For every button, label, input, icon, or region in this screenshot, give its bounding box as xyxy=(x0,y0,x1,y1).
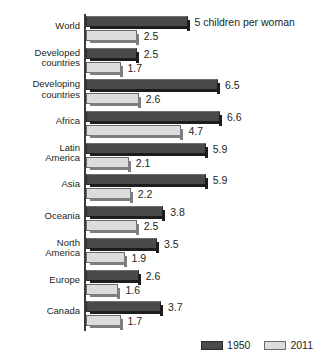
chart-row: Developing countries6.52.6 xyxy=(0,77,321,109)
legend-item-2011: 2011 xyxy=(264,339,313,351)
bar-wrapper: 5.9 xyxy=(86,174,321,186)
category-label: Europe xyxy=(0,275,80,286)
chart-row: Oceania3.82.5 xyxy=(0,204,321,236)
chart-row: Canada3.71.7 xyxy=(0,299,321,331)
bar-value-label: 2.5 xyxy=(144,48,159,60)
bar-wrapper: 5 children per woman xyxy=(86,16,321,28)
plot-area: World5 children per woman2.5Developed co… xyxy=(0,0,321,332)
bar-value-label: 5.9 xyxy=(213,174,228,186)
bar-value-label: 1.7 xyxy=(128,315,143,327)
bar-wrapper: 2.5 xyxy=(86,30,321,42)
bar-value-label: 6.5 xyxy=(225,79,240,91)
bar-value-label: 5.9 xyxy=(213,143,228,155)
chart-row: World5 children per woman2.5 xyxy=(0,14,321,46)
row-bars: 2.51.7 xyxy=(86,48,321,76)
bar-value-label: 3.7 xyxy=(168,301,183,313)
bar-2011 xyxy=(86,252,125,263)
bar-value-label: 6.6 xyxy=(227,111,242,123)
bar-value-label: 1.7 xyxy=(128,62,143,74)
bar-wrapper: 1.9 xyxy=(86,252,321,264)
bar-2011 xyxy=(86,188,131,199)
row-bars: 6.64.7 xyxy=(86,111,321,139)
bar-value-label: 2.5 xyxy=(144,30,159,42)
legend-item-1950: 1950 xyxy=(201,339,250,351)
bar-wrapper: 2.6 xyxy=(86,93,321,105)
bar-wrapper: 5.9 xyxy=(86,143,321,155)
bar-1950 xyxy=(86,270,139,281)
legend-swatch-2011 xyxy=(264,341,286,350)
bar-wrapper: 3.5 xyxy=(86,238,321,250)
bar-1950 xyxy=(86,48,137,59)
bar-wrapper: 2.5 xyxy=(86,48,321,60)
category-label: Oceania xyxy=(0,211,80,222)
bar-wrapper: 2.1 xyxy=(86,157,321,169)
bar-wrapper: 6.5 xyxy=(86,79,321,91)
bar-wrapper: 1.7 xyxy=(86,315,321,327)
bar-value-label: 1.9 xyxy=(132,252,147,264)
chart-row: Asia5.92.2 xyxy=(0,172,321,204)
row-bars: 5.92.1 xyxy=(86,143,321,171)
bar-value-label: 2.6 xyxy=(146,93,161,105)
bar-2011 xyxy=(86,315,121,326)
bar-rows: World5 children per woman2.5Developed co… xyxy=(0,14,321,331)
chart-annotation: 5 children per woman xyxy=(195,16,295,28)
bar-2011 xyxy=(86,157,129,168)
category-label: Developed countries xyxy=(0,48,80,69)
bar-1950 xyxy=(86,111,220,122)
bar-wrapper: 3.8 xyxy=(86,206,321,218)
bar-wrapper: 2.6 xyxy=(86,270,321,282)
legend-swatch-1950 xyxy=(201,341,223,350)
bar-2011 xyxy=(86,125,181,136)
bar-value-label: 4.7 xyxy=(188,125,203,137)
bar-wrapper: 3.7 xyxy=(86,301,321,313)
bar-1950 xyxy=(86,238,157,249)
legend-label-2011: 2011 xyxy=(290,339,313,351)
chart-row: North America3.51.9 xyxy=(0,236,321,268)
chart-row: Latin America5.92.1 xyxy=(0,141,321,173)
bar-wrapper: 2.2 xyxy=(86,188,321,200)
bar-value-label: 2.2 xyxy=(138,188,153,200)
bar-1950 xyxy=(86,174,206,185)
bar-value-label: 2.5 xyxy=(144,220,159,232)
row-bars: 5 children per woman2.5 xyxy=(86,16,321,44)
category-label: North America xyxy=(0,238,80,259)
row-bars: 3.71.7 xyxy=(86,301,321,329)
row-bars: 2.61.6 xyxy=(86,270,321,298)
bar-1950 xyxy=(86,301,161,312)
bar-1950 xyxy=(86,206,163,217)
category-label: Asia xyxy=(0,179,80,190)
chart-row: Europe2.61.6 xyxy=(0,268,321,300)
chart-row: Developed countries2.51.7 xyxy=(0,46,321,78)
bar-value-label: 3.8 xyxy=(170,206,185,218)
category-label: Developing countries xyxy=(0,79,80,100)
category-label: Africa xyxy=(0,116,80,127)
category-label: Canada xyxy=(0,306,80,317)
bar-2011 xyxy=(86,284,118,295)
fertility-bar-chart: World5 children per woman2.5Developed co… xyxy=(0,0,321,358)
bar-value-label: 2.1 xyxy=(136,157,151,169)
row-bars: 6.52.6 xyxy=(86,79,321,107)
bar-wrapper: 2.5 xyxy=(86,220,321,232)
bar-2011 xyxy=(86,220,137,231)
bar-wrapper: 4.7 xyxy=(86,125,321,137)
row-bars: 3.51.9 xyxy=(86,238,321,266)
chart-legend: 19502011 xyxy=(0,336,321,354)
bar-value-label: 1.6 xyxy=(125,284,140,296)
bar-1950 xyxy=(86,143,206,154)
bar-value-label: 3.5 xyxy=(164,238,179,250)
bar-value-label: 2.6 xyxy=(146,270,161,282)
category-label: World xyxy=(0,21,80,32)
row-bars: 3.82.5 xyxy=(86,206,321,234)
bar-2011 xyxy=(86,93,139,104)
bar-wrapper: 6.6 xyxy=(86,111,321,123)
chart-row: Africa6.64.7 xyxy=(0,109,321,141)
bar-1950 xyxy=(86,16,188,27)
bar-wrapper: 1.6 xyxy=(86,284,321,296)
bar-2011 xyxy=(86,30,137,41)
legend-label-1950: 1950 xyxy=(227,339,250,351)
bar-wrapper: 1.7 xyxy=(86,62,321,74)
bar-2011 xyxy=(86,62,121,73)
bar-1950 xyxy=(86,79,218,90)
row-bars: 5.92.2 xyxy=(86,174,321,202)
category-label: Latin America xyxy=(0,143,80,164)
